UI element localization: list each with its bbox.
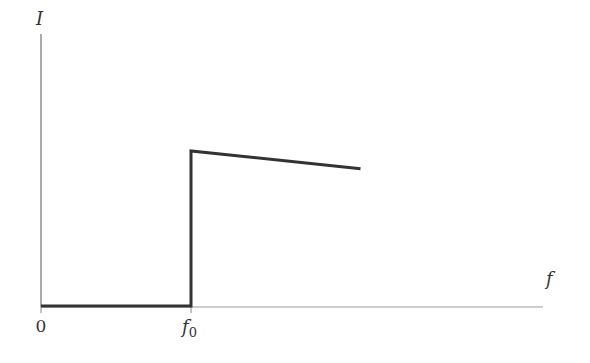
x-tick-label-f0: f0 (180, 316, 197, 340)
y-axis-label: I (35, 8, 44, 29)
x-tick-label-origin: 0 (36, 316, 47, 336)
f0-subscript: 0 (189, 325, 197, 340)
photoelectric-step-chart: I f 0 f0 (0, 0, 590, 363)
x-axis-label: f (544, 268, 556, 289)
intensity-curve (41, 151, 361, 306)
